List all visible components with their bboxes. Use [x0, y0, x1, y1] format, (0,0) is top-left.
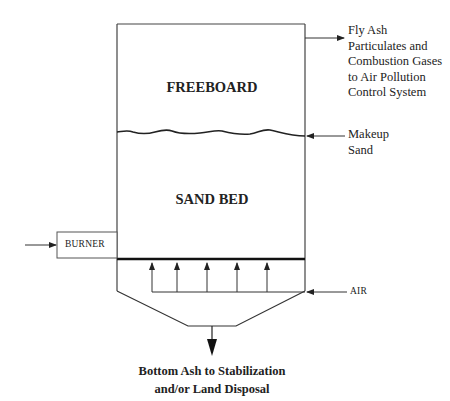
bottom-ash-arrowhead [207, 339, 217, 356]
fly-ash-line-1: Fly Ash [348, 23, 442, 39]
freeboard-label: FREEBOARD [166, 79, 257, 96]
sand-bed-label: SAND BED [176, 191, 249, 208]
air-manifold [152, 263, 305, 292]
makeup-sand-line-1: Makeup [348, 127, 389, 143]
hopper [117, 291, 305, 326]
bed-surface-line [117, 130, 305, 136]
fly-ash-line-4: to Air Pollution [348, 70, 442, 86]
vessel [117, 24, 305, 291]
bottom-ash-line-2: and/or Land Disposal [139, 380, 286, 398]
makeup-sand-label: Makeup Sand [348, 127, 389, 158]
bottom-ash-label: Bottom Ash to Stabilization and/or Land … [139, 362, 286, 398]
fly-ash-line-3: Combustion Gases [348, 54, 442, 70]
air-label: AIR [350, 286, 367, 296]
fly-ash-line-5: Control System [348, 85, 442, 101]
bottom-ash-line-1: Bottom Ash to Stabilization [139, 362, 286, 380]
makeup-sand-line-2: Sand [348, 143, 389, 159]
fly-ash-label: Fly Ash Particulates and Combustion Gase… [348, 23, 442, 101]
burner-label: BURNER [65, 239, 105, 249]
fly-ash-line-2: Particulates and [348, 39, 442, 55]
